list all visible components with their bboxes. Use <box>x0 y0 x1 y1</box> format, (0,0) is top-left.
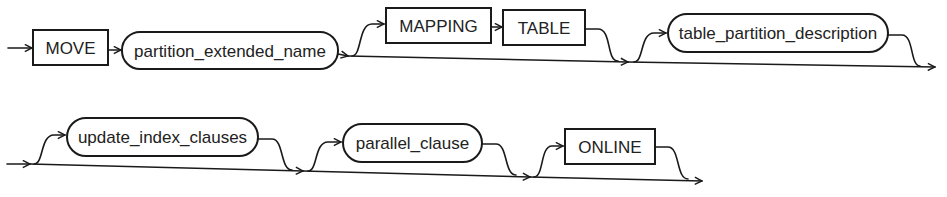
keyword-move: MOVE <box>33 30 108 65</box>
rejoin-line <box>482 144 516 175</box>
bypass-line <box>30 164 303 171</box>
bypass-line <box>628 62 935 67</box>
rejoin-line <box>258 139 292 170</box>
row-2: update_index_clauses parallel_clause ONL… <box>7 118 702 181</box>
row-1: MOVE partition_extended_name MAPPING TAB… <box>8 8 935 69</box>
rejoin-line <box>888 35 920 66</box>
nonterminal-update-index-clauses-label: update_index_clauses <box>78 128 247 147</box>
keyword-online: ONLINE <box>565 129 655 164</box>
keyword-mapping: MAPPING <box>386 8 491 43</box>
nonterminal-parallel-clause-label: parallel_clause <box>356 134 469 153</box>
nonterminal-partition-extended-name: partition_extended_name <box>122 32 338 69</box>
branch-arrow-icon <box>34 135 65 164</box>
branch-arrow-icon <box>534 146 563 177</box>
exit-arrow-icon <box>530 177 702 181</box>
syntax-diagram: MOVE partition_extended_name MAPPING TAB… <box>0 0 947 197</box>
bypass-line <box>303 171 530 177</box>
nonterminal-table-partition-description-label: table_partition_description <box>679 24 877 43</box>
keyword-move-label: MOVE <box>45 39 95 58</box>
nonterminal-parallel-clause: parallel_clause <box>343 124 482 162</box>
branch-arrow-icon <box>308 142 341 171</box>
rejoin-line <box>655 147 688 179</box>
connector-arrow-icon <box>338 54 348 56</box>
nonterminal-update-index-clauses: update_index_clauses <box>67 118 258 156</box>
branch-arrow-icon <box>634 33 666 62</box>
keyword-mapping-label: MAPPING <box>399 17 477 36</box>
branch-arrow-icon <box>352 24 384 56</box>
nonterminal-partition-extended-name-label: partition_extended_name <box>134 42 326 61</box>
keyword-online-label: ONLINE <box>578 138 641 157</box>
rejoin-line <box>585 29 618 61</box>
keyword-table-label: TABLE <box>518 19 571 38</box>
bypass-line <box>348 56 628 62</box>
nonterminal-table-partition-description: table_partition_description <box>668 14 888 52</box>
keyword-table: TABLE <box>503 10 585 45</box>
